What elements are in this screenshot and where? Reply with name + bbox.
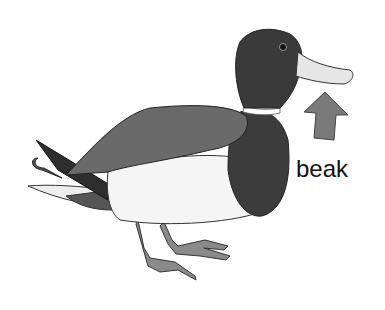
arrow-up-icon — [304, 92, 348, 140]
duck-illustration: beak — [0, 0, 385, 310]
beak — [296, 52, 353, 84]
leg-front — [160, 222, 230, 260]
eye — [280, 44, 287, 51]
beak-label: beak — [296, 155, 348, 183]
head — [236, 29, 302, 108]
